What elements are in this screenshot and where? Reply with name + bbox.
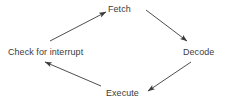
arrow-execute-to-check [45,62,101,86]
node-label-decode: Decode [183,46,214,57]
arrow-decode-to-execute [148,62,191,91]
arrow-check-to-fetch [50,12,106,41]
node-label-execute: Execute [106,87,139,98]
diagram-canvas: Fetch Decode Execute Check for interrupt [0,0,225,106]
node-label-fetch: Fetch [108,3,131,14]
arrow-fetch-to-decode [146,10,187,41]
node-label-check-for-interrupt: Check for interrupt [8,46,83,57]
